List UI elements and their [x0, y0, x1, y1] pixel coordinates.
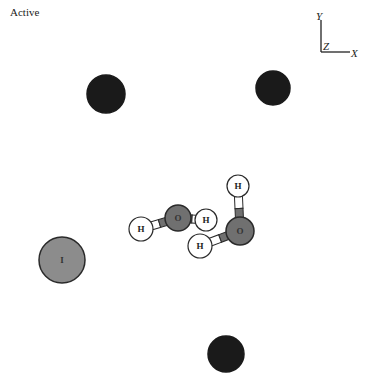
atom-sphere[interactable]: [87, 75, 125, 113]
atom-w2-h2[interactable]: H: [188, 234, 212, 258]
atom-label: H: [202, 215, 209, 225]
atom-iodine[interactable]: I: [39, 237, 85, 283]
atom-w1-o[interactable]: O: [165, 205, 191, 231]
atom-label: H: [196, 241, 203, 251]
molecule-viewport[interactable]: Y Z X IHOHHOH: [0, 0, 373, 390]
y-axis-label: Y: [316, 10, 324, 22]
x-axis-label: X: [350, 47, 359, 59]
atom-dark-3[interactable]: [208, 336, 244, 372]
atom-sphere[interactable]: [256, 71, 290, 105]
atom-label: H: [234, 181, 241, 191]
axis-indicator: Y Z X: [316, 10, 359, 59]
atom-dark-2[interactable]: [256, 71, 290, 105]
atom-dark-1[interactable]: [87, 75, 125, 113]
atom-w2-h1[interactable]: H: [227, 175, 249, 197]
atom-label: H: [137, 224, 144, 234]
atom-w2-o[interactable]: O: [226, 217, 254, 245]
atom-label: I: [60, 255, 64, 265]
atom-label: O: [174, 213, 181, 223]
atom-sphere[interactable]: [208, 336, 244, 372]
atom-w1-h1[interactable]: H: [129, 217, 153, 241]
atom-w1-h2[interactable]: H: [195, 209, 217, 231]
z-axis-label: Z: [323, 40, 330, 52]
atom-label: O: [236, 226, 243, 236]
